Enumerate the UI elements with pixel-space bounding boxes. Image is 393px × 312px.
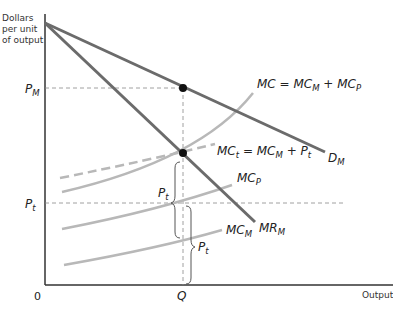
equilibrium-dot-mct xyxy=(179,149,187,157)
origin-label: 0 xyxy=(34,290,41,303)
q-label: Q xyxy=(177,289,186,303)
mc-total-label: MC = MCM + MCP xyxy=(257,77,362,93)
brace-upper-label: Pt xyxy=(158,186,169,202)
demand-label: DM xyxy=(328,151,345,167)
y-axis-label-line1: Dollars xyxy=(2,13,34,23)
mc-m-label: MCM xyxy=(226,223,253,239)
mc-tax-label: MCt = MCM + Pt xyxy=(217,144,312,160)
y-axis-label-line2: per unit xyxy=(2,24,38,34)
pt-brace-upper xyxy=(171,162,180,238)
pt-label: Pt xyxy=(25,197,36,213)
mc-p-curve xyxy=(62,185,232,229)
y-axis-label-line3: of output xyxy=(2,35,44,45)
brace-lower-label: Pt xyxy=(198,240,209,256)
mr-label: MRM xyxy=(259,221,286,237)
mc-p-label: MCP xyxy=(237,171,262,187)
pm-label: PM xyxy=(25,82,40,98)
pt-brace-lower xyxy=(186,206,195,284)
mc-total-curve xyxy=(62,93,253,192)
equilibrium-dot-pm xyxy=(179,84,187,92)
tax-monopoly-diagram: Dollars per unit of output Output 0 PM P… xyxy=(0,0,393,312)
x-axis-label: Output xyxy=(362,290,393,300)
